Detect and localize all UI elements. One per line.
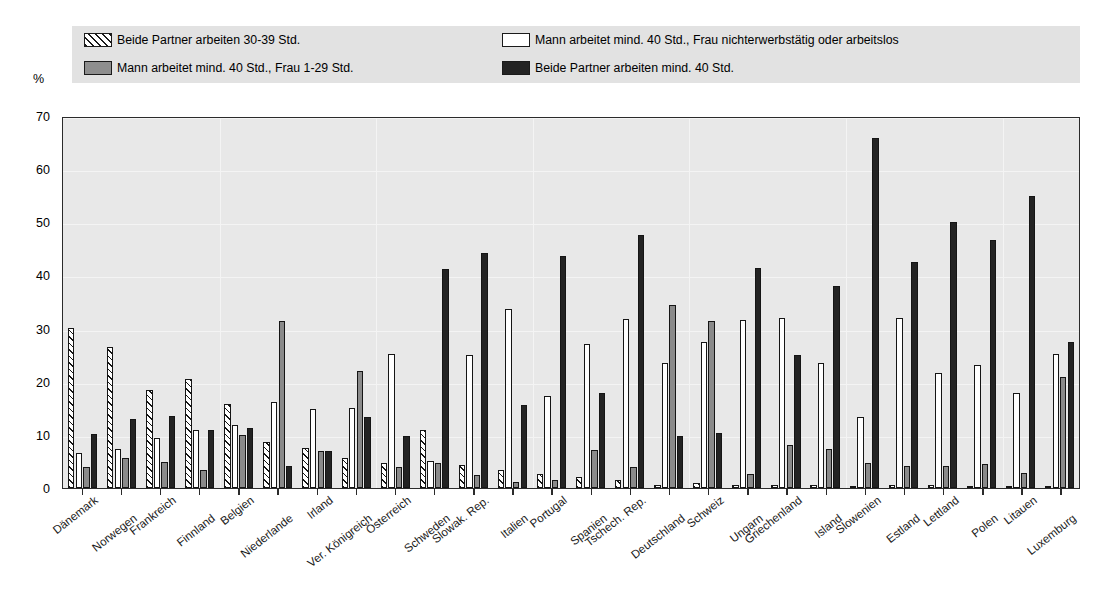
legend-label: Beide Partner arbeiten mind. 40 Std. bbox=[535, 62, 734, 75]
black-swatch-icon bbox=[502, 61, 530, 75]
bar-hatched bbox=[107, 347, 113, 488]
bar-gray bbox=[1060, 377, 1066, 488]
x-axis-label: Polen bbox=[969, 511, 1000, 540]
bar-gray bbox=[122, 458, 128, 488]
bar-white bbox=[974, 365, 980, 488]
bar-hatched bbox=[342, 458, 348, 488]
bar-black bbox=[442, 269, 448, 488]
bar-black bbox=[521, 405, 527, 488]
bar-hatched bbox=[615, 480, 621, 488]
bar-hatched bbox=[1006, 486, 1012, 488]
x-axis-label: Lettland bbox=[920, 493, 961, 529]
bar-white bbox=[466, 355, 472, 488]
bar-black bbox=[403, 436, 409, 488]
bar-group bbox=[102, 118, 141, 488]
bar-gray bbox=[904, 466, 910, 488]
bar-black bbox=[833, 286, 839, 488]
bar-hatched bbox=[1045, 486, 1051, 488]
bar-black bbox=[325, 451, 331, 488]
legend-column-right: Mann arbeitet mind. 40 Std., Frau nichte… bbox=[502, 26, 899, 82]
bar-gray bbox=[747, 474, 753, 488]
bar-gray bbox=[943, 466, 949, 488]
bar-groups bbox=[63, 118, 1079, 488]
bar-group bbox=[376, 118, 415, 488]
bar-gray bbox=[630, 467, 636, 488]
bar-group bbox=[415, 118, 454, 488]
bar-white bbox=[623, 319, 629, 488]
bar-group bbox=[571, 118, 610, 488]
bar-white bbox=[154, 438, 160, 488]
bar-gray bbox=[865, 463, 871, 488]
bar-black bbox=[91, 434, 97, 488]
bar-black bbox=[990, 240, 996, 488]
bar-white bbox=[505, 309, 511, 488]
x-axis-label: Belgien bbox=[218, 493, 256, 527]
bar-hatched bbox=[810, 485, 816, 488]
bar-group bbox=[219, 118, 258, 488]
hatched-swatch-icon bbox=[84, 33, 112, 47]
x-axis-label: Slowenien bbox=[832, 493, 882, 536]
bar-hatched bbox=[889, 485, 895, 488]
x-axis-label: Schweiz bbox=[684, 493, 726, 530]
bar-gray bbox=[591, 450, 597, 488]
bar-black bbox=[247, 428, 253, 488]
bar-hatched bbox=[224, 404, 230, 488]
bar-group bbox=[532, 118, 571, 488]
bar-white bbox=[584, 344, 590, 488]
bar-hatched bbox=[576, 477, 582, 488]
bar-black bbox=[677, 436, 683, 488]
y-tick-label: 30 bbox=[36, 323, 50, 337]
x-axis-label: Finnland bbox=[174, 511, 217, 549]
bar-hatched bbox=[771, 485, 777, 488]
bar-gray bbox=[83, 467, 89, 488]
bar-gray bbox=[826, 449, 832, 488]
bar-white bbox=[1053, 354, 1059, 488]
white-swatch-icon bbox=[502, 33, 530, 47]
bar-gray bbox=[435, 463, 441, 488]
bar-white bbox=[1013, 393, 1019, 488]
bar-group bbox=[610, 118, 649, 488]
bar-gray bbox=[552, 480, 558, 488]
bar-gray bbox=[239, 435, 245, 488]
y-tick-label: 0 bbox=[43, 482, 50, 496]
bar-black bbox=[560, 256, 566, 488]
bar-black bbox=[286, 466, 292, 488]
bar-white bbox=[896, 318, 902, 488]
y-tick-label: 40 bbox=[36, 269, 50, 283]
bar-group bbox=[688, 118, 727, 488]
bar-group bbox=[1040, 118, 1079, 488]
x-axis-label: Dänemark bbox=[49, 493, 99, 536]
legend-column-left: Beide Partner arbeiten 30-39 Std. Mann a… bbox=[84, 26, 354, 82]
x-axis-labels: DänemarkNorwegenFrankreichFinnlandBelgie… bbox=[62, 489, 1080, 589]
bar-group bbox=[63, 118, 102, 488]
bar-gray bbox=[1021, 473, 1027, 488]
plot-area bbox=[62, 117, 1080, 489]
legend-item-man40-woman-inactive: Mann arbeitet mind. 40 Std., Frau nichte… bbox=[502, 26, 899, 54]
bar-black bbox=[599, 393, 605, 488]
bar-hatched bbox=[693, 483, 699, 488]
bar-black bbox=[716, 433, 722, 488]
chart-legend: Beide Partner arbeiten 30-39 Std. Mann a… bbox=[72, 26, 1080, 83]
bar-hatched bbox=[263, 442, 269, 488]
bar-black bbox=[794, 355, 800, 488]
bar-black bbox=[364, 417, 370, 488]
bar-hatched bbox=[146, 390, 152, 488]
bar-white bbox=[818, 363, 824, 488]
x-axis-label: Litauen bbox=[1001, 493, 1039, 527]
bar-group bbox=[180, 118, 219, 488]
bar-hatched bbox=[850, 486, 856, 488]
bar-white bbox=[349, 408, 355, 488]
x-axis-label: Italien bbox=[498, 511, 530, 540]
bar-gray bbox=[396, 467, 402, 488]
bar-hatched bbox=[928, 485, 934, 488]
bar-white bbox=[701, 342, 707, 488]
bar-black bbox=[169, 416, 175, 488]
bar-white bbox=[76, 453, 82, 488]
legend-item-both-40plus: Beide Partner arbeiten mind. 40 Std. bbox=[502, 54, 899, 82]
bar-group bbox=[923, 118, 962, 488]
bar-hatched bbox=[185, 379, 191, 488]
x-axis-label: Luxemburg bbox=[1025, 511, 1079, 557]
bar-hatched bbox=[732, 485, 738, 488]
y-tick-label: 10 bbox=[36, 429, 50, 443]
gray-swatch-icon bbox=[84, 61, 112, 75]
